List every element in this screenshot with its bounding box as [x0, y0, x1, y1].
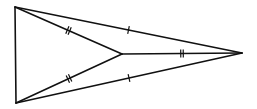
tick-mark-BC [128, 74, 130, 82]
segment-AD [15, 7, 122, 54]
segment-BD [16, 54, 122, 103]
geometry-diagram [0, 0, 257, 109]
tick-mark-AC [128, 26, 130, 34]
segments [15, 7, 242, 103]
segment-AB [15, 7, 16, 103]
segment-DC [122, 53, 242, 54]
